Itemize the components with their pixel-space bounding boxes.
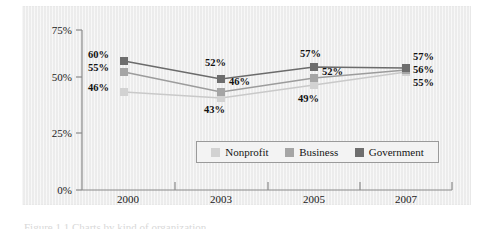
data-label-government-2000: 60% (88, 49, 109, 60)
x-tick-label-2000: 2000 (108, 193, 148, 205)
data-point-marker (310, 81, 318, 89)
legend-item-government[interactable]: Government (355, 146, 424, 158)
x-tick-label-2003: 2003 (201, 193, 241, 205)
y-tick-label-0: 0% (38, 184, 72, 196)
data-point-marker (120, 68, 128, 76)
legend-swatch-government (355, 148, 364, 157)
y-axis-ticks (76, 30, 82, 190)
data-label-business-2007: 56% (413, 64, 434, 75)
data-label-nonprofit-2007: 55% (413, 77, 434, 88)
data-label-business-2005: 52% (322, 66, 343, 77)
data-label-nonprofit-2003: 43% (204, 104, 225, 115)
figure-caption: Figure 1.1 Charts by kind of organizatio… (24, 221, 206, 229)
data-label-nonprofit-2005: 49% (298, 93, 319, 104)
x-tick-label-2005: 2005 (294, 193, 334, 205)
legend-label-government: Government (369, 146, 424, 158)
data-label-government-2005: 57% (300, 48, 321, 59)
figure-container: 75% 50% 25% 0% 2000 2003 2005 2007 60% 5… (0, 0, 493, 229)
data-point-marker (217, 88, 225, 96)
data-point-marker (310, 63, 318, 71)
data-label-business-2003: 46% (229, 76, 250, 87)
chart-legend: Nonprofit Business Government (196, 141, 439, 163)
x-tick-label-2007: 2007 (386, 193, 426, 205)
axis-lines (82, 30, 452, 190)
y-tick-label-50: 50% (38, 71, 72, 83)
data-label-nonprofit-2000: 46% (88, 82, 109, 93)
data-point-marker (217, 75, 225, 83)
y-tick-label-75: 75% (38, 24, 72, 36)
x-axis-ticks (175, 182, 452, 190)
data-label-government-2007: 57% (413, 51, 434, 62)
data-point-marker (120, 57, 128, 65)
data-label-government-2003: 52% (205, 57, 226, 68)
y-tick-label-25: 25% (38, 127, 72, 139)
legend-label-nonprofit: Nonprofit (225, 146, 268, 158)
data-label-business-2000: 55% (88, 62, 109, 73)
legend-item-nonprofit[interactable]: Nonprofit (211, 146, 268, 158)
legend-swatch-business (285, 148, 294, 157)
data-point-marker (402, 64, 410, 72)
legend-item-business[interactable]: Business (285, 146, 338, 158)
data-point-marker (120, 88, 128, 96)
data-point-marker (310, 74, 318, 82)
series-government (120, 57, 410, 83)
legend-label-business: Business (299, 146, 338, 158)
legend-swatch-nonprofit (211, 148, 220, 157)
